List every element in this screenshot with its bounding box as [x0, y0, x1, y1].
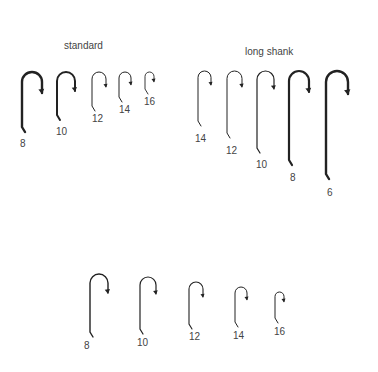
hook-size-label: 10 [137, 337, 148, 348]
hook-size-16-icon [145, 72, 156, 94]
hook-size-14-icon [198, 71, 213, 126]
hook-size-10-icon [140, 277, 158, 334]
hook-size-label: 14 [119, 104, 130, 115]
hook-size-label: 12 [189, 331, 200, 342]
hook-size-12-icon [92, 72, 108, 111]
hook-size-10-icon [257, 71, 276, 153]
hook-size-label: 16 [274, 326, 285, 337]
hook-size-8-icon [289, 71, 311, 165]
group-title-standard: standard [64, 40, 103, 51]
hook-size-8-icon [22, 72, 44, 132]
hook-size-label: 6 [327, 187, 333, 198]
hook-size-8-icon [90, 274, 110, 337]
hook-size-6-icon [326, 71, 350, 179]
hook-size-label: 10 [256, 159, 267, 170]
hook-size-12-icon [189, 282, 205, 329]
group-title-long-shank: long shank [245, 46, 293, 57]
hook-size-14-icon [119, 72, 133, 102]
hook-size-label: 16 [144, 96, 155, 107]
hook-size-label: 14 [195, 133, 206, 144]
hook-size-16-icon [275, 292, 286, 323]
hook-size-label: 8 [20, 138, 26, 149]
hook-size-label: 12 [92, 113, 103, 124]
hook-size-label: 12 [226, 145, 237, 156]
hook-size-label: 8 [290, 172, 296, 183]
hook-size-label: 8 [84, 340, 90, 351]
hooks-drawing [0, 0, 378, 372]
hook-size-14-icon [235, 287, 249, 327]
hook-size-label: 10 [56, 126, 67, 137]
hook-size-10-icon [57, 72, 77, 120]
hook-size-12-icon [227, 71, 244, 138]
hook-size-label: 14 [233, 330, 244, 341]
